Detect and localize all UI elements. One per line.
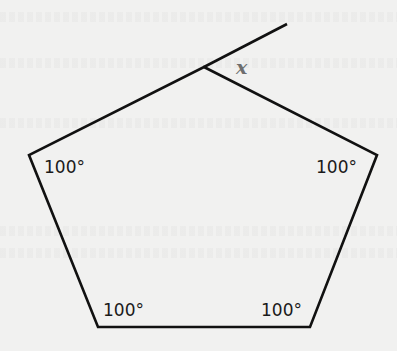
angle-label-left: 100° [44,157,85,177]
angle-label-right: 100° [316,157,357,177]
pentagon-diagram: x 100° 100° 100° 100° [0,0,397,351]
angle-label-bottom-left: 100° [103,300,144,320]
pentagon-shape [29,67,377,327]
diagram-svg: x 100° 100° 100° 100° [0,0,397,351]
angle-label-bottom-right: 100° [261,300,302,320]
unknown-angle-x-label: x [235,56,248,78]
